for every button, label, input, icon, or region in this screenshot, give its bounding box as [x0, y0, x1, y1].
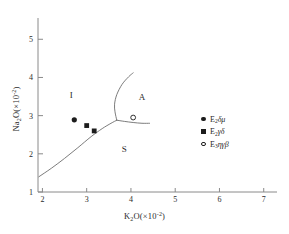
field-boundary-curve [39, 120, 117, 177]
x-axis-title: K2O(×10-2) [0, 211, 289, 221]
x-axis-tick-label: 4 [129, 195, 133, 204]
x-axis-title-sup: -2 [157, 211, 162, 217]
data-point-circle-open [131, 115, 136, 120]
x-axis-tick-label: 6 [217, 195, 221, 204]
legend-item: E2γδ [197, 126, 279, 138]
x-axis-tick-label: 3 [85, 195, 89, 204]
field-label: S [122, 144, 127, 154]
y-axis-tick-label: 3 [29, 112, 33, 121]
x-axis-title-sub: 2 [130, 216, 133, 222]
y-axis-title-rest: O(×10 [11, 95, 21, 118]
field-boundary-curve [114, 73, 133, 120]
y-axis-title-base: Na [11, 121, 21, 131]
field-boundary-curve [117, 120, 150, 123]
data-point-square-filled [92, 129, 97, 134]
chart-legend: E2δμ E2γδ E3ηγβ [197, 113, 279, 151]
field-label: A [139, 92, 146, 102]
x-axis-title-tail: ) [162, 211, 165, 221]
legend-item-label: E2γδ [210, 127, 225, 136]
y-axis-title-sub: 2 [16, 118, 22, 121]
y-axis-title-sup: -2 [11, 89, 17, 94]
x-axis-tick-label: 7 [262, 195, 266, 204]
legend-marker-circle-open-icon [197, 142, 210, 146]
data-point-circle-filled [72, 117, 77, 122]
data-point-square-filled [84, 123, 89, 128]
x-axis-tick-label: 5 [173, 195, 177, 204]
legend-item-label: E2δμ [210, 115, 225, 124]
legend-item: E3ηγβ [197, 138, 279, 150]
y-axis-tick-label: 2 [29, 150, 33, 159]
y-axis-title: Na2O(×10-2) [11, 49, 21, 169]
y-axis-tick-label: 5 [29, 35, 33, 44]
field-label: I [70, 90, 73, 100]
x-axis-title-rest: O(×10 [133, 211, 156, 221]
legend-item: E2δμ [197, 113, 279, 125]
x-axis-tick-label: 2 [40, 195, 44, 204]
y-axis-tick-label: 1 [29, 188, 33, 197]
chart-figure: 23456712345IAS Na2O(×10-2) K2O(×10-2) E2… [0, 0, 289, 234]
legend-marker-square-filled-icon [197, 129, 210, 133]
legend-item-label: E3ηγβ [210, 140, 229, 149]
legend-marker-circle-filled-icon [197, 117, 210, 122]
y-axis-tick-label: 4 [29, 73, 33, 82]
